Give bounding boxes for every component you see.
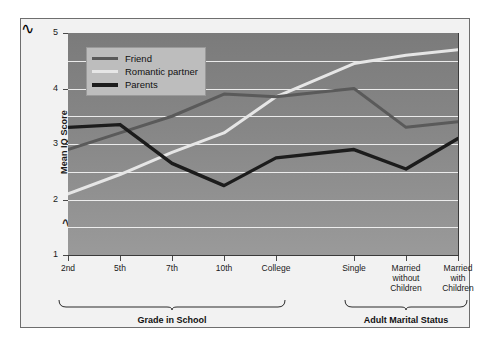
chart-legend: Friend Romantic partner Parents <box>86 47 206 96</box>
legend-item-parents: Parents <box>92 78 197 91</box>
y-tick-label: 1 <box>42 249 58 259</box>
series-line-friend <box>68 89 458 150</box>
legend-label-friend: Friend <box>125 53 152 64</box>
x-tick-mark <box>120 256 121 261</box>
x-tick-label: Married with Children <box>430 263 486 293</box>
x-tick-label: Single <box>326 263 382 273</box>
x-tick-label: Married without Children <box>378 263 434 293</box>
legend-item-friend: Friend <box>92 52 197 65</box>
group-bracket <box>344 299 468 312</box>
x-tick-mark <box>276 256 277 261</box>
group-bracket <box>58 299 286 312</box>
group-label: Grade in School <box>137 315 206 325</box>
x-tick-label: College <box>248 263 304 273</box>
x-tick-mark <box>458 256 459 261</box>
y-tick-label: 5 <box>42 27 58 37</box>
x-axis-line <box>68 255 459 256</box>
x-tick-label: 10th <box>196 263 252 273</box>
legend-label-romantic-partner: Romantic partner <box>125 66 198 77</box>
legend-item-romantic-partner: Romantic partner <box>92 65 197 78</box>
legend-swatch-parents <box>92 83 118 87</box>
x-tick-label: 2nd <box>40 263 96 273</box>
y-tick-label: 3 <box>42 138 58 148</box>
legend-label-parents: Parents <box>125 79 158 90</box>
legend-swatch-romantic-partner <box>92 70 118 73</box>
x-tick-mark <box>68 256 69 261</box>
x-tick-mark <box>354 256 355 261</box>
x-tick-mark <box>172 256 173 261</box>
y-tick-label: 4 <box>42 83 58 93</box>
series-line-parents <box>68 125 458 186</box>
x-tick-label: 5th <box>92 263 148 273</box>
y-tick-label: 2 <box>42 194 58 204</box>
chart-figure: Mean IQ Score ∿ 12345 Friend Romantic pa… <box>20 18 470 328</box>
group-label: Adult Marital Status <box>364 315 449 325</box>
x-tick-mark <box>406 256 407 261</box>
legend-swatch-friend <box>92 57 118 60</box>
x-tick-mark <box>224 256 225 261</box>
x-tick-label: 7th <box>144 263 200 273</box>
